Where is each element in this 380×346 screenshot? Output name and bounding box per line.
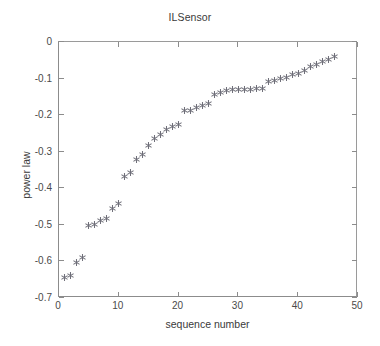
data-point [145, 142, 152, 149]
x-tick [118, 292, 119, 297]
x-tick-label: 50 [351, 300, 362, 311]
y-tick [59, 224, 64, 225]
data-point [127, 169, 134, 176]
y-tick [352, 224, 357, 225]
x-tick-label: 0 [55, 300, 61, 311]
plot-area [58, 41, 357, 297]
scatter-points [59, 42, 356, 296]
y-tick [352, 114, 357, 115]
data-point [139, 151, 146, 158]
x-tick [118, 42, 119, 47]
y-tick [352, 260, 357, 261]
y-tick [59, 151, 64, 152]
x-axis-title: sequence number [58, 318, 357, 330]
y-tick [59, 187, 64, 188]
data-point [115, 200, 122, 207]
data-point [331, 53, 338, 60]
x-tick-label: 10 [112, 300, 123, 311]
y-tick [352, 297, 357, 298]
data-point [175, 121, 182, 128]
x-tick-label: 30 [232, 300, 243, 311]
x-tick-label: 20 [172, 300, 183, 311]
data-point [67, 272, 74, 279]
y-tick-label: -0.6 [0, 255, 52, 266]
x-tick [237, 292, 238, 297]
y-tick [59, 114, 64, 115]
y-tick [352, 187, 357, 188]
y-tick-label: -0.7 [0, 292, 52, 303]
x-tick-label: 40 [292, 300, 303, 311]
y-tick-label: 0 [0, 36, 52, 47]
y-tick [59, 260, 64, 261]
y-tick [59, 78, 64, 79]
figure: ILSensor 01020304050 0-0.1-0.2-0.3-0.4-0… [0, 0, 380, 346]
y-tick [352, 41, 357, 42]
x-tick [58, 42, 59, 47]
x-tick [237, 42, 238, 47]
x-tick [297, 42, 298, 47]
x-tick [357, 292, 358, 297]
chart-title: ILSensor [0, 11, 380, 23]
data-point [103, 215, 110, 222]
y-tick [352, 78, 357, 79]
data-point [79, 254, 86, 261]
x-tick [178, 42, 179, 47]
y-axis-title: power law [20, 105, 32, 245]
y-tick [59, 297, 64, 298]
x-tick [178, 292, 179, 297]
x-tick [357, 42, 358, 47]
data-point [205, 100, 212, 107]
y-tick [59, 41, 64, 42]
x-tick [297, 292, 298, 297]
data-point [259, 85, 266, 92]
y-tick [352, 151, 357, 152]
y-tick-label: -0.1 [0, 72, 52, 83]
